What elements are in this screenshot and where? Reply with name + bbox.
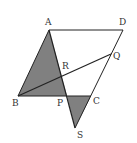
label-c: C bbox=[93, 96, 100, 106]
label-d: D bbox=[119, 17, 126, 27]
label-a: A bbox=[44, 17, 52, 27]
geometry-diagram: A D Q R B P C S bbox=[0, 0, 137, 143]
segment-ds bbox=[75, 30, 123, 128]
label-b: B bbox=[12, 98, 19, 108]
label-r: R bbox=[62, 61, 69, 71]
shaded-triangle-abp bbox=[18, 30, 67, 96]
label-s: S bbox=[77, 130, 83, 140]
label-q: Q bbox=[113, 51, 120, 61]
label-p: P bbox=[57, 98, 63, 108]
